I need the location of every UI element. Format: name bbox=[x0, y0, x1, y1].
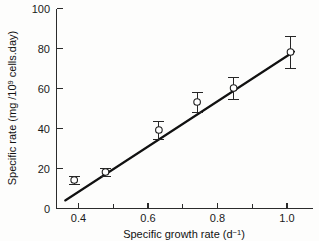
x-tick-label-0.8: 0.8 bbox=[210, 212, 225, 224]
marker-4 bbox=[194, 99, 201, 106]
y-tick-label-100: 100 bbox=[32, 3, 50, 15]
y-axis-tick-labels: 0 20 40 60 80 100 bbox=[32, 3, 50, 215]
marker-5 bbox=[230, 85, 237, 92]
x-axis-label-main: Specific growth rate (d bbox=[123, 228, 232, 240]
x-tick-label-0.4: 0.4 bbox=[71, 212, 86, 224]
marker-6 bbox=[287, 49, 294, 56]
x-axis-tick-labels: 0.4 0.6 0.8 1.0 bbox=[71, 212, 295, 224]
x-axis-label: Specific growth rate (d−1) bbox=[123, 228, 245, 241]
data-point-1 bbox=[69, 176, 80, 184]
x-axis-label-superscript: −1 bbox=[233, 228, 242, 237]
x-axis-ticks-minor bbox=[113, 204, 252, 209]
y-tick-label-40: 40 bbox=[38, 123, 50, 135]
x-axis-label-tail: ) bbox=[241, 228, 245, 240]
y-tick-label-80: 80 bbox=[38, 43, 50, 55]
y-tick-label-60: 60 bbox=[38, 83, 50, 95]
y-tick-label-0: 0 bbox=[44, 203, 50, 215]
y-tick-label-20: 20 bbox=[38, 163, 50, 175]
scatter-plot: 0 20 40 60 80 100 0.4 0.6 0.8 1.0 bbox=[0, 0, 319, 241]
y-axis-label: Specific rate (mg /109 cells.day) bbox=[6, 31, 19, 186]
x-tick-label-0.6: 0.6 bbox=[140, 212, 155, 224]
regression-line bbox=[65, 52, 294, 201]
axes-group bbox=[57, 9, 313, 209]
x-tick-label-1.0: 1.0 bbox=[279, 212, 294, 224]
marker-2 bbox=[102, 169, 109, 176]
y-axis-label-tail: cells.day) bbox=[6, 31, 18, 81]
figure-container: 0 20 40 60 80 100 0.4 0.6 0.8 1.0 bbox=[0, 0, 319, 241]
data-point-4 bbox=[192, 92, 203, 112]
y-axis-ticks bbox=[57, 9, 63, 209]
y-axis-label-main: Specific rate (mg /10 bbox=[6, 84, 18, 185]
marker-3 bbox=[156, 127, 163, 134]
marker-1 bbox=[71, 177, 78, 184]
